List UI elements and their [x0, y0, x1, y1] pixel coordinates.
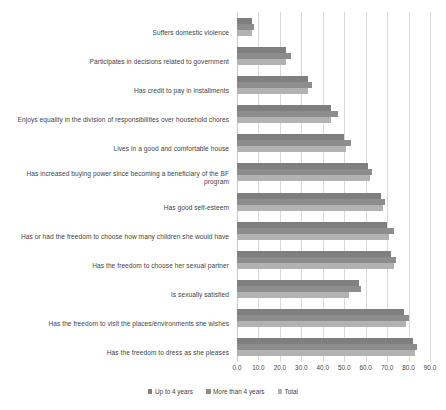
category-label: Participates in decisions related to gov…: [0, 58, 229, 66]
category-label: Enjoys equality in the division of respo…: [0, 116, 229, 124]
category-label: Has the freedom to visit the places/envi…: [0, 320, 229, 328]
bar-group: [237, 333, 430, 362]
bar-group: [237, 129, 430, 158]
category-label: Is sexually satisfied: [0, 291, 229, 299]
bar-group: [237, 100, 430, 129]
x-tick-label: 20.0: [274, 364, 286, 371]
bar-2: [237, 88, 308, 94]
legend-label: More than 4 years: [213, 388, 265, 395]
bar-2: [237, 146, 346, 152]
bar-group: [237, 304, 430, 333]
category-label: Suffers domestic violence: [0, 29, 229, 37]
bar-2: [237, 263, 394, 269]
legend-item[interactable]: Total: [278, 388, 299, 395]
bar-groups: [237, 12, 430, 362]
bar-chart: Suffers domestic violenceParticipates in…: [0, 0, 446, 410]
category-axis-labels: Suffers domestic violenceParticipates in…: [0, 12, 233, 362]
legend-swatch-icon: [148, 389, 153, 394]
bar-group: [237, 216, 430, 245]
chart-legend: Up to 4 yearsMore than 4 yearsTotal: [0, 388, 446, 395]
bar-2: [237, 117, 331, 123]
category-label: Has credit to pay in installments: [0, 87, 229, 95]
x-tick-label: 10.0: [252, 364, 264, 371]
bar-2: [237, 30, 252, 36]
x-tick-label: 80.0: [402, 364, 414, 371]
category-label: Has the freedom to dress as she pleases: [0, 349, 229, 357]
bar-2: [237, 350, 415, 356]
legend-swatch-icon: [206, 389, 211, 394]
bar-group: [237, 187, 430, 216]
bar-2: [237, 321, 406, 327]
x-tick-label: 70.0: [381, 364, 393, 371]
legend-label: Total: [285, 388, 299, 395]
bar-group: [237, 12, 430, 41]
x-tick-label: 0.0: [233, 364, 242, 371]
bar-2: [237, 205, 383, 211]
x-tick-label: 60.0: [359, 364, 371, 371]
gridline-90.0: [430, 12, 431, 362]
bar-2: [237, 292, 349, 298]
x-tick-label: 90.0: [424, 364, 436, 371]
legend-swatch-icon: [278, 389, 283, 394]
legend-label: Up to 4 years: [155, 388, 193, 395]
category-label: Has increased buying power since becomin…: [0, 170, 229, 187]
bar-group: [237, 70, 430, 99]
x-tick-label: 40.0: [317, 364, 329, 371]
bar-2: [237, 175, 370, 181]
x-tick-label: 30.0: [295, 364, 307, 371]
plot-area: [237, 12, 430, 362]
category-label: Has good self-esteem: [0, 204, 229, 212]
bar-group: [237, 41, 430, 70]
legend-item[interactable]: Up to 4 years: [148, 388, 193, 395]
bar-group: [237, 245, 430, 274]
category-label: Lives in a good and comfortable house: [0, 145, 229, 153]
x-tick-label: 50.0: [338, 364, 350, 371]
bar-2: [237, 59, 286, 65]
category-label: Has or had the freedom to choose how man…: [0, 233, 229, 241]
x-axis-ticks: 0.010.020.030.040.050.060.070.080.090.0: [237, 364, 430, 378]
bar-group: [237, 158, 430, 187]
bar-group: [237, 275, 430, 304]
category-label: Has the freedom to choose her sexual par…: [0, 262, 229, 270]
bar-2: [237, 234, 389, 240]
legend-item[interactable]: More than 4 years: [206, 388, 265, 395]
